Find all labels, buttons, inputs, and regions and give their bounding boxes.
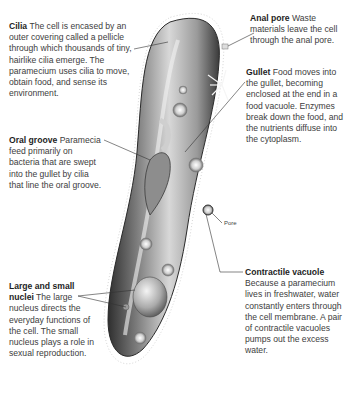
- label-contractile-vacuole: Contractile vacuole Because a paramecium…: [245, 267, 349, 357]
- label-contractile-vacuole-text: Because a paramecium lives in freshwater…: [245, 278, 342, 355]
- label-oral-groove-title: Oral groove: [9, 135, 57, 145]
- label-contractile-vacuole-title: Contractile vacuole: [245, 267, 324, 277]
- label-anal-pore: Anal pore Waste materials leave the cell…: [250, 13, 346, 47]
- anal-pore: [222, 44, 228, 49]
- label-cilia: Cilia The cell is encased by an outer co…: [9, 21, 139, 99]
- label-cilia-text: The cell is encased by an outer covering…: [9, 21, 132, 98]
- label-gullet-title: Gullet: [246, 67, 270, 77]
- label-anal-pore-title: Anal pore: [250, 13, 290, 23]
- large-nucleus: [133, 277, 167, 317]
- label-nuclei: Large and small nuclei The large nucleus…: [9, 281, 97, 359]
- pore: [203, 205, 213, 215]
- label-pore: Pore: [224, 220, 237, 226]
- label-oral-groove: Oral groove Paramecia feed primarily on …: [9, 135, 105, 191]
- label-gullet: Gullet Food moves into the gullet, becom…: [246, 67, 346, 145]
- label-cilia-title: Cilia: [9, 21, 27, 31]
- label-gullet-text: Food moves into the gullet, becoming enc…: [246, 67, 343, 144]
